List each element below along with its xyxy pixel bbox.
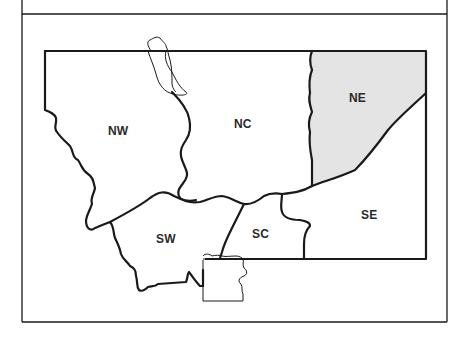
- region-label-sc[interactable]: SC: [252, 227, 269, 241]
- region-label-se[interactable]: SE: [361, 208, 377, 222]
- park-outline-north: [148, 37, 187, 95]
- region-label-nc[interactable]: NC: [234, 117, 252, 131]
- panel-border: [22, 0, 447, 322]
- region-ne-fill[interactable]: [309, 51, 426, 186]
- region-label-ne[interactable]: NE: [349, 91, 366, 105]
- map-frame: [0, 0, 458, 339]
- park-outline-south: [203, 254, 247, 301]
- region-label-sw[interactable]: SW: [156, 232, 176, 246]
- region-label-nw[interactable]: NW: [108, 124, 128, 138]
